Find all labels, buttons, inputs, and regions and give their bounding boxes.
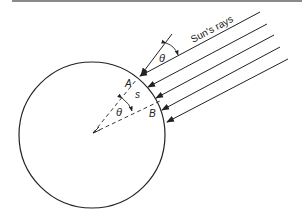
inner-theta-label: θ	[116, 106, 122, 118]
ray-5	[167, 59, 288, 122]
earth-circle	[19, 62, 165, 208]
sun-rays-diagram: Sun's rays θ A s θ B	[0, 0, 302, 213]
ray-4	[162, 47, 280, 110]
point-a-label: A	[124, 78, 132, 89]
normal-line-a	[141, 34, 172, 75]
point-b-label: B	[149, 108, 156, 119]
outer-theta-label: θ	[159, 52, 165, 64]
ray-3	[156, 35, 274, 98]
center-arrowhead	[93, 127, 100, 133]
arc-s-label: s	[135, 89, 140, 100]
ray-1	[140, 12, 260, 76]
inner-angle-arc	[122, 98, 132, 111]
outer-angle-arc	[166, 43, 178, 55]
